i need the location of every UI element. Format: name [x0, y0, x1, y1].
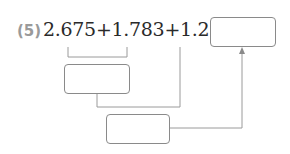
connector-step2-to-answer — [170, 52, 242, 128]
connector-step1-to-third-term — [97, 47, 180, 107]
bracket-first-two-terms — [68, 47, 127, 57]
arrow-up-icon — [239, 47, 245, 54]
connector-lines — [0, 0, 290, 154]
